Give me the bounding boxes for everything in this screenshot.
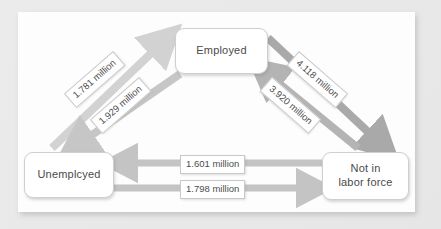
node-employed-label: Employed (196, 44, 247, 58)
node-unemployed[interactable]: Unemplcyed (24, 152, 114, 198)
node-employed[interactable]: Employed (175, 28, 268, 74)
node-not-in-labor-force-label-line2: labor force (338, 176, 392, 188)
node-unemployed-label: Unemplcyed (37, 168, 100, 182)
node-not-in-labor-force-label-line1: Not in (351, 162, 381, 174)
node-not-in-labor-force[interactable]: Not in labor force (322, 152, 409, 200)
edge-label-not-in-labor-force-to-unemployed: 1.601 million (180, 155, 245, 174)
edge-label-unemployed-to-not-in-labor-force: 1.798 million (180, 180, 245, 199)
node-not-in-labor-force-label: Not in labor force (338, 162, 392, 190)
labor-force-flow-figure: Employed Unemplcyed Not in labor force 1… (0, 0, 441, 229)
